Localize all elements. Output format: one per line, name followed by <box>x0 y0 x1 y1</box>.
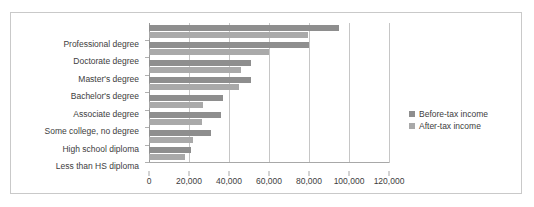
value-axis-tick-label: 80,000 <box>296 176 322 186</box>
bar-after-tax <box>149 32 308 38</box>
category-label: Some college, no degree <box>23 126 139 136</box>
bar-group <box>149 76 389 94</box>
bar-before-tax <box>149 112 221 118</box>
chart-legend: Before-tax incomeAfter-tax income <box>409 109 525 133</box>
legend-label: After-tax income <box>419 121 481 131</box>
value-axis-line <box>149 162 389 163</box>
category-label: Bachelor's degree <box>23 91 139 101</box>
bar-group <box>149 146 389 164</box>
bar-group <box>149 58 389 76</box>
bar-before-tax <box>149 130 211 136</box>
category-axis-labels: Professional degreeDoctorate degreeMaste… <box>23 35 139 175</box>
bar-after-tax <box>149 137 193 143</box>
value-axis-tick-label: 40,000 <box>216 176 242 186</box>
bar-group <box>149 23 389 41</box>
bar-group <box>149 128 389 146</box>
bar-after-tax <box>149 67 241 73</box>
bar-group <box>149 41 389 59</box>
bar-before-tax <box>149 60 251 66</box>
category-label: Associate degree <box>23 109 139 119</box>
plot-inner <box>149 23 389 163</box>
legend-item[interactable]: Before-tax income <box>409 109 525 119</box>
legend-swatch-icon <box>409 123 415 129</box>
category-label: Doctorate degree <box>23 56 139 66</box>
plot-area <box>139 23 389 171</box>
category-label: High school diploma <box>23 144 139 154</box>
category-label: Master's degree <box>23 74 139 84</box>
chart-container: Professional degreeDoctorate degreeMaste… <box>0 0 534 207</box>
chart-frame: Professional degreeDoctorate degreeMaste… <box>10 12 522 194</box>
bar-before-tax <box>149 42 309 48</box>
bar-group <box>149 111 389 129</box>
legend-label: Before-tax income <box>419 109 488 119</box>
bar-after-tax <box>149 119 202 125</box>
bar-group <box>149 93 389 111</box>
bar-after-tax <box>149 102 203 108</box>
value-axis-tick-label: 120,000 <box>374 176 405 186</box>
value-axis-tick-label: 20,000 <box>176 176 202 186</box>
bar-after-tax <box>149 84 239 90</box>
value-axis-tick-label: 0 <box>147 176 152 186</box>
value-axis-tick-label: 100,000 <box>334 176 365 186</box>
value-axis-labels: 020,00040,00060,00080,000100,000120,000 <box>149 176 389 190</box>
legend-swatch-icon <box>409 111 415 117</box>
value-axis-tick-label: 60,000 <box>256 176 282 186</box>
bar-before-tax <box>149 95 223 101</box>
category-label: Professional degree <box>23 39 139 49</box>
bar-before-tax <box>149 147 191 153</box>
bar-before-tax <box>149 25 339 31</box>
bar-after-tax <box>149 49 269 55</box>
gridline-120000 <box>389 23 390 163</box>
bar-before-tax <box>149 77 251 83</box>
bar-rows <box>149 23 389 163</box>
category-label: Less than HS diploma <box>23 161 139 171</box>
legend-item[interactable]: After-tax income <box>409 121 525 131</box>
bar-after-tax <box>149 154 185 160</box>
